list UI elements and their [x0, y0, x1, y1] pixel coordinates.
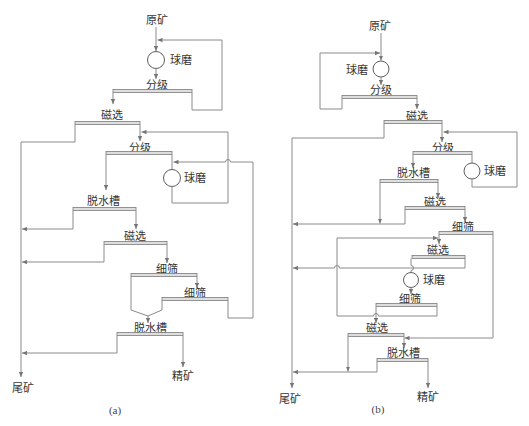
fine-screen-bar	[439, 232, 493, 235]
magnetic-separator-bar	[405, 207, 465, 210]
classifier-bar	[106, 152, 172, 155]
fine-screen-bar	[376, 304, 437, 307]
dewatering-tank-bar	[377, 359, 428, 362]
flowsheet-figure: 原矿 球磨 分级 磁选 分级 球磨 脱水槽 磁选	[0, 0, 529, 426]
ball-mill-icon	[373, 61, 389, 77]
tailings-line	[293, 362, 377, 373]
flow-line	[411, 259, 414, 273]
magnetic-separator-bar	[348, 334, 404, 337]
ball-mill-label: 球磨	[423, 273, 445, 287]
panel-caption: (a)	[109, 404, 122, 417]
panel-caption: (b)	[372, 403, 385, 416]
magnetic-separator-bar	[384, 121, 442, 124]
magnetic-separation-label: 磁选	[366, 322, 388, 335]
recycle-line	[158, 40, 223, 110]
panel-b: 原矿 球磨 分级 磁选 分级 球磨 脱水槽 磁选 细筛	[279, 20, 517, 417]
tailings-label: 尾矿	[12, 382, 34, 395]
flowsheet-svg: 原矿 球磨 分级 磁选 分级 球磨 脱水槽 磁选	[0, 0, 529, 426]
dewatering-tank-bar	[380, 180, 438, 183]
magnetic-separation-label: 磁选	[427, 244, 449, 257]
dewatering-tank-bar	[73, 208, 136, 211]
tailings-line	[293, 259, 465, 269]
tailings-line	[21, 125, 75, 378]
tailings-line	[22, 336, 117, 354]
ball-mill-label: 球磨	[184, 171, 206, 185]
ball-mill-icon	[464, 163, 480, 179]
flow-line	[131, 277, 148, 317]
feed-label: 原矿	[146, 14, 168, 27]
panel-a: 原矿 球磨 分级 磁选 分级 球磨 脱水槽 磁选	[12, 14, 253, 418]
tailings-line	[292, 124, 384, 389]
ball-mill-label: 球磨	[170, 53, 192, 67]
dewatering-tank-label: 脱水槽	[387, 346, 420, 360]
dewatering-tank-label: 脱水槽	[87, 194, 120, 208]
ball-mill-icon	[404, 273, 419, 288]
ball-mill-label: 球磨	[484, 164, 506, 178]
fine-screen-bar	[162, 298, 228, 301]
magnetic-separator-bar	[75, 122, 140, 125]
classifier-bar	[342, 96, 417, 99]
feed-label: 原矿	[369, 20, 391, 33]
magnetic-separator-bar	[412, 256, 465, 259]
classifier-bar	[113, 90, 192, 93]
tailings-line	[22, 245, 104, 263]
magnetic-separation-label: 磁选	[101, 109, 123, 122]
recycle-line	[444, 132, 518, 187]
ball-mill-icon	[148, 52, 165, 69]
concentrate-label: 精矿	[172, 370, 194, 383]
recycle-line	[320, 53, 380, 109]
fine-screen-bar	[131, 274, 197, 277]
classifier-bar	[413, 152, 472, 155]
classification-label: 分级	[370, 84, 392, 97]
concentrate-label: 精矿	[417, 391, 439, 404]
dewatering-tank-label: 脱水槽	[397, 166, 430, 180]
tailings-line	[293, 210, 405, 225]
flow-line	[148, 301, 162, 317]
magnetic-separator-bar	[104, 242, 167, 245]
ball-mill-label: 球磨	[346, 63, 368, 77]
ball-mill-icon	[164, 170, 181, 187]
magnetic-separation-label: 磁选	[124, 230, 146, 243]
dewatering-tank-bar	[117, 333, 183, 336]
tailings-label: 尾矿	[279, 393, 301, 406]
tailings-line	[22, 211, 73, 230]
recycle-line	[142, 132, 229, 203]
